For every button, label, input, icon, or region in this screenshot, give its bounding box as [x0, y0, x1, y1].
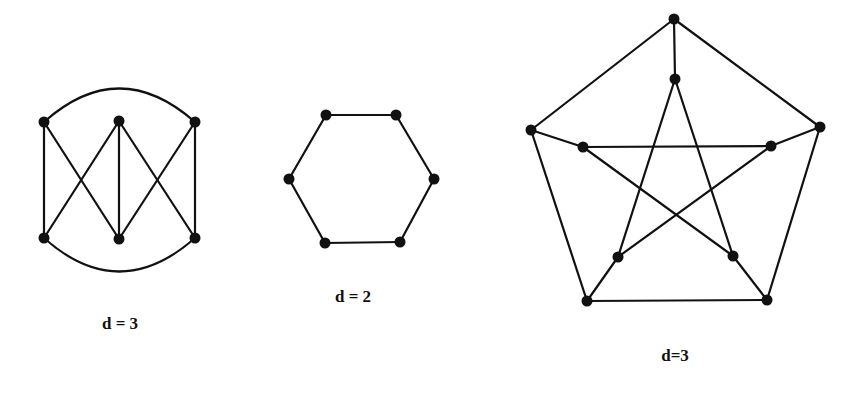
- vertex: [284, 174, 295, 185]
- vertex: [39, 233, 50, 244]
- vertex: [320, 238, 331, 249]
- edge: [675, 79, 733, 256]
- edge: [587, 300, 767, 301]
- vertex: [728, 251, 739, 262]
- edge: [583, 147, 733, 256]
- edge: [396, 115, 434, 179]
- vertex: [582, 296, 593, 307]
- edge: [587, 257, 618, 301]
- edge: [400, 179, 434, 242]
- graph-3-diameter-label: d=3: [661, 346, 689, 366]
- graph-1-diameter-label: d = 3: [102, 314, 138, 334]
- vertex: [815, 122, 826, 133]
- edge: [674, 19, 675, 79]
- edge: [325, 242, 400, 243]
- edge: [289, 115, 326, 179]
- graph-2-hexagon-cycle: [284, 110, 440, 249]
- edge: [674, 19, 820, 127]
- vertex: [578, 142, 589, 153]
- vertex: [766, 141, 777, 152]
- diagram-canvas: [0, 0, 865, 393]
- vertex: [670, 74, 681, 85]
- edge: [733, 256, 767, 300]
- graph-2-diameter-label: d = 2: [335, 287, 371, 307]
- vertex: [190, 117, 201, 128]
- vertex: [321, 110, 332, 121]
- vertex: [429, 174, 440, 185]
- vertex: [39, 117, 50, 128]
- vertex: [669, 14, 680, 25]
- graph-1-bipartite-like: [39, 89, 201, 272]
- edge: [618, 79, 675, 257]
- edge: [767, 127, 820, 300]
- edge: [583, 146, 771, 147]
- vertex: [613, 252, 624, 263]
- edge: [618, 146, 771, 257]
- edge: [531, 130, 587, 301]
- vertex: [114, 116, 125, 127]
- vertex: [114, 234, 125, 245]
- edge: [531, 130, 583, 147]
- edge: [531, 19, 674, 130]
- edge: [289, 179, 325, 243]
- vertex: [762, 295, 773, 306]
- vertex: [391, 110, 402, 121]
- edge: [771, 127, 820, 146]
- vertex: [190, 233, 201, 244]
- graph-3-petersen: [526, 14, 826, 307]
- vertex: [395, 237, 406, 248]
- vertex: [526, 125, 537, 136]
